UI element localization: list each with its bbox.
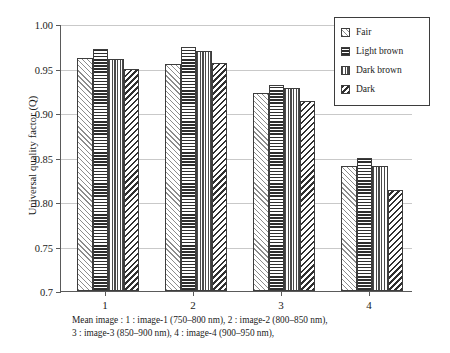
legend-label: Fair: [356, 28, 371, 38]
legend-swatch-icon: [341, 28, 350, 37]
y-axis-tick-label: 0.95: [35, 64, 53, 75]
chart-figure: Universal quality factor (Q) 0.70.750.80…: [0, 0, 450, 353]
y-axis-tick-label: 0.85: [35, 153, 53, 164]
y-axis-tick-mark: [56, 25, 61, 26]
caption-line: Mean image : 1 : image-1 (750–800 nm), 2…: [72, 314, 402, 327]
legend-item: Light brown: [341, 42, 423, 61]
legend-swatch-icon: [341, 85, 350, 94]
x-axis-tick-label: 3: [278, 299, 284, 311]
bar: [300, 101, 316, 291]
bar: [388, 190, 404, 291]
legend-item: Fair: [341, 23, 423, 42]
bar: [212, 63, 228, 291]
bar-group: [77, 25, 139, 291]
bar: [357, 158, 373, 292]
bar: [341, 166, 357, 291]
y-axis-tick-label: 0.7: [40, 287, 53, 298]
legend-swatch-icon: [341, 66, 350, 75]
y-axis-tick-mark: [56, 159, 61, 160]
bar: [372, 166, 388, 291]
legend-item: Dark: [341, 80, 423, 99]
bar: [196, 51, 212, 291]
y-axis-tick-mark: [56, 292, 61, 293]
x-axis-tick-label: 4: [366, 299, 372, 311]
y-axis-tick-mark: [56, 203, 61, 204]
legend-label: Dark brown: [356, 66, 402, 76]
bar: [77, 58, 93, 291]
x-axis-tick-label: 1: [102, 299, 108, 311]
x-axis-tick-mark: [193, 291, 194, 296]
x-axis-tick-label: 2: [190, 299, 196, 311]
bar: [165, 64, 181, 291]
bar: [181, 47, 197, 291]
x-axis-tick-mark: [369, 291, 370, 296]
y-axis-tick-mark: [56, 70, 61, 71]
bar-group: [165, 25, 227, 291]
y-axis-tick-label: 1.00: [35, 20, 53, 31]
bar: [124, 69, 140, 291]
legend-swatch-icon: [341, 47, 350, 56]
legend-item: Dark brown: [341, 61, 423, 80]
y-axis-tick-label: 0.80: [35, 198, 53, 209]
caption-line: 3 : image-3 (850–900 nm), 4 : image-4 (9…: [72, 327, 402, 340]
x-axis-tick-mark: [281, 291, 282, 296]
chart-caption: Mean image : 1 : image-1 (750–800 nm), 2…: [72, 314, 402, 340]
legend-label: Light brown: [356, 47, 403, 57]
chart-legend: FairLight brownDark brownDark: [334, 17, 430, 106]
x-axis-tick-mark: [105, 291, 106, 296]
bar: [269, 85, 285, 291]
y-axis-tick-label: 0.75: [35, 242, 53, 253]
y-axis-tick-mark: [56, 114, 61, 115]
bar: [253, 93, 269, 291]
bar-group: [253, 25, 315, 291]
legend-label: Dark: [356, 85, 375, 95]
y-axis-tick-label: 0.90: [35, 109, 53, 120]
y-axis-tick-mark: [56, 248, 61, 249]
bar: [108, 59, 124, 291]
bar: [93, 49, 109, 291]
bar: [284, 88, 300, 291]
